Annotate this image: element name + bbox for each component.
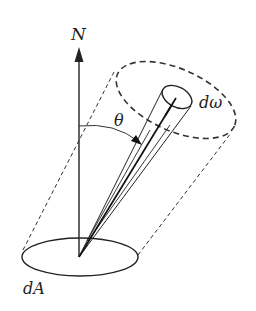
radiance-diagram: N θ dω dA — [0, 0, 256, 311]
area-label: dA — [23, 279, 45, 298]
solid-angle-ellipse — [158, 81, 196, 114]
solid-angle-label: dω — [199, 93, 222, 112]
normal-arrowhead-icon — [75, 47, 84, 62]
normal-label: N — [70, 24, 87, 44]
theta-label: θ — [114, 111, 124, 130]
cone-inner-left — [87, 130, 150, 241]
area-ellipse — [22, 238, 138, 276]
theta-arrowhead-icon — [131, 135, 142, 145]
cone-right-edge — [79, 106, 191, 257]
theta-arc — [79, 125, 139, 142]
central-ray — [79, 98, 176, 257]
